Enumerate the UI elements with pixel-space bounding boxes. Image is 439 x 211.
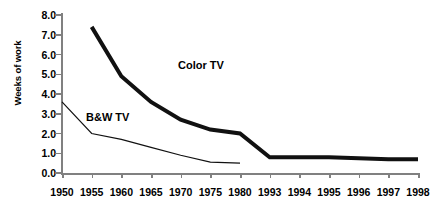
series-annotation-color-tv: Color TV bbox=[178, 59, 224, 71]
series-plot-area bbox=[0, 0, 439, 211]
series-line-color-tv bbox=[92, 27, 418, 159]
series-annotation-bw-tv: B&W TV bbox=[86, 111, 129, 123]
chart-container: Weeks of work 0.01.02.03.04.05.06.07.08.… bbox=[0, 0, 439, 211]
